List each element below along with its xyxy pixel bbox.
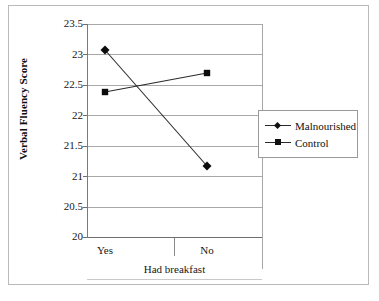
gridline-22-5 <box>87 85 262 86</box>
legend: Malnourished Control <box>258 110 358 158</box>
legend-marker-square-icon <box>265 137 291 149</box>
legend-item-control: Control <box>265 135 329 151</box>
gridline-20-5 <box>87 207 262 208</box>
legend-label-malnourished: Malnourished <box>295 120 356 132</box>
ytick-label-20-5: 20.5 <box>17 201 87 212</box>
y-axis-line <box>87 24 88 238</box>
gridline-23-5 <box>87 24 262 25</box>
plot-area <box>87 24 262 237</box>
gridline-21 <box>87 176 262 177</box>
legend-item-malnourished: Malnourished <box>265 118 356 134</box>
ytick-label-20: 20 <box>17 231 87 242</box>
gridline-21-5 <box>87 146 262 147</box>
legend-marker-diamond-icon <box>265 120 291 132</box>
x-axis-bottom-rule <box>87 279 262 280</box>
xtick-label-no: No <box>172 244 242 256</box>
legend-label-control: Control <box>295 137 329 149</box>
y-axis-title: Verbal Fluency Score <box>17 39 29 179</box>
gridline-22 <box>87 115 262 116</box>
xtick-label-yes: Yes <box>70 244 140 256</box>
x-axis-title: Had breakfast <box>87 263 262 275</box>
gridline-23 <box>87 54 262 55</box>
figure-container: 23.5 23 22.5 22 21.5 21 20.5 20 Verbal F… <box>0 0 379 301</box>
ytick-label-23-5: 23.5 <box>17 18 87 29</box>
